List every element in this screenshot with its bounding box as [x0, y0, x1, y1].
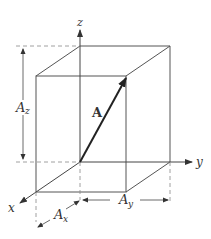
svg-text:y: y — [127, 199, 134, 209]
vector-components-diagram: z y x A A z A y A x — [0, 0, 211, 239]
z-axis-label: z — [76, 16, 83, 29]
x-axis-label: x — [8, 201, 15, 215]
svg-text:A: A — [53, 207, 63, 222]
x-axis — [20, 162, 80, 203]
y-axis-label: y — [195, 155, 203, 169]
dashed-guides — [16, 46, 170, 222]
az-label: A z — [15, 100, 30, 116]
svg-text:A: A — [15, 100, 25, 115]
svg-text:x: x — [63, 214, 68, 224]
vector-a-label: A — [91, 105, 103, 120]
ax-label: A x — [53, 207, 68, 224]
svg-text:z: z — [24, 106, 30, 116]
ay-label: A y — [118, 192, 134, 209]
svg-text:A: A — [118, 192, 128, 207]
vector-a-arrow — [80, 78, 126, 162]
